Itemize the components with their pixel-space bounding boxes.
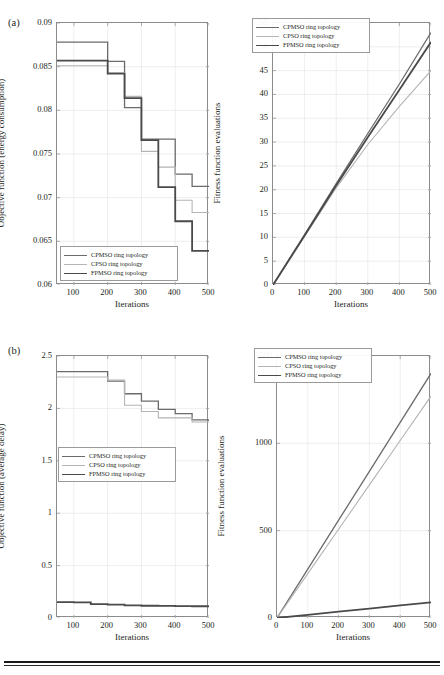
series-line-2 xyxy=(57,61,209,251)
x-tick-label: 200 xyxy=(320,287,350,297)
x-tick-label: 400 xyxy=(384,620,414,630)
legend-item-2: FPMSO ring topology xyxy=(256,40,365,49)
x-tick-label: 300 xyxy=(352,287,382,297)
y-axis-label: Objective function (average delay) xyxy=(0,355,6,617)
y-axis-label: Fitness function evaluations xyxy=(212,22,222,284)
x-tick-label: 200 xyxy=(92,287,122,297)
gridlines xyxy=(277,356,431,618)
legend-label: FPMSO ring topology xyxy=(283,40,339,49)
chart-a-left: 0.060.0650.070.0750.080.0850.09100200300… xyxy=(0,0,222,330)
legend-label: CPMSO ring topology xyxy=(285,352,342,361)
y-tick-label: 1.5 xyxy=(8,455,52,465)
x-tick-label: 500 xyxy=(193,287,223,297)
x-tick-label: 300 xyxy=(353,620,383,630)
legend-line-swatch xyxy=(62,451,85,460)
y-axis-label: Fitness function evaluations xyxy=(216,355,226,617)
y-tick-label: 2.5 xyxy=(8,350,52,360)
legend-label: FPMSO ring topology xyxy=(91,268,147,277)
series-line-1 xyxy=(57,377,209,422)
y-tick-label: 0.085 xyxy=(8,61,52,71)
legend-item-1: CPSO ring topology xyxy=(256,31,365,40)
x-tick-label: 400 xyxy=(159,620,189,630)
series-line-2 xyxy=(57,602,209,606)
legend-label: CPMSO ring topology xyxy=(91,250,148,259)
x-tick-label: 0 xyxy=(261,620,291,630)
legend-line-swatch xyxy=(62,469,85,478)
y-tick-label: 0.08 xyxy=(8,104,52,114)
chart-b-right: 0500100015000100200300400500IterationsFi… xyxy=(222,330,444,660)
series-line-0 xyxy=(57,372,209,421)
legend-line-swatch xyxy=(258,370,281,379)
x-tick-label: 500 xyxy=(415,287,444,297)
y-tick-label: 0.5 xyxy=(8,560,52,570)
x-tick-label: 0 xyxy=(257,287,287,297)
legend-line-swatch xyxy=(258,352,281,361)
x-tick-label: 200 xyxy=(92,620,122,630)
y-tick-label: 2 xyxy=(8,402,52,412)
y-tick-label: 0.07 xyxy=(8,192,52,202)
legend-line-swatch xyxy=(64,268,87,277)
x-tick-label: 500 xyxy=(193,620,223,630)
series-line-1 xyxy=(273,71,431,285)
series-line-0 xyxy=(277,373,431,618)
x-tick-label: 300 xyxy=(125,287,155,297)
legend-item-0: CPMSO ring topology xyxy=(258,352,367,361)
x-axis-label: Iterations xyxy=(56,632,208,642)
legend-line-swatch xyxy=(62,460,85,469)
legend-label: CPSO ring topology xyxy=(89,460,140,469)
legend-line-swatch xyxy=(64,250,87,259)
plot-area-a-right xyxy=(272,22,430,284)
y-tick-label: 0.09 xyxy=(8,17,52,27)
legend-label: FPMSO ring topology xyxy=(89,469,145,478)
y-tick-label: 10 xyxy=(224,231,268,241)
series-line-0 xyxy=(57,42,209,186)
legend-label: CPSO ring topology xyxy=(285,361,336,370)
chart-a-right: 05101520253035404550550100200300400500It… xyxy=(222,0,444,330)
legend-line-swatch xyxy=(256,40,279,49)
legend-b-left: CPMSO ring topologyCPSO ring topologyFPM… xyxy=(58,447,176,482)
legend-label: CPMSO ring topology xyxy=(283,22,340,31)
series-line-2 xyxy=(277,602,431,618)
legend-line-swatch xyxy=(256,22,279,31)
legend-label: FPMSO ring topology xyxy=(285,370,341,379)
y-tick-label: 0 xyxy=(8,612,52,622)
legend-item-0: CPMSO ring topology xyxy=(64,250,173,259)
figure-page: (a) 0.060.0650.070.0750.080.0850.0910020… xyxy=(0,0,444,675)
legend-line-swatch xyxy=(258,361,281,370)
tick-marks xyxy=(57,356,209,618)
x-axis-label: Iterations xyxy=(272,299,430,309)
x-tick-label: 100 xyxy=(289,287,319,297)
x-tick-label: 100 xyxy=(58,287,88,297)
series-line-1 xyxy=(277,396,431,618)
legend-a-left: CPMSO ring topologyCPSO ring topologyFPM… xyxy=(60,246,178,281)
y-tick-label: 30 xyxy=(224,136,268,146)
x-tick-label: 200 xyxy=(323,620,353,630)
footer-rule xyxy=(4,661,440,663)
x-tick-label: 300 xyxy=(125,620,155,630)
legend-line-swatch xyxy=(256,31,279,40)
y-tick-label: 35 xyxy=(224,112,268,122)
series-line-1 xyxy=(57,66,209,213)
footer-rule-thin xyxy=(4,665,440,666)
plot-area-b-left xyxy=(56,355,208,617)
y-tick-label: 40 xyxy=(224,88,268,98)
x-tick-label: 400 xyxy=(159,287,189,297)
y-tick-label: 500 xyxy=(228,525,272,535)
series-line-2 xyxy=(273,42,431,285)
tick-marks xyxy=(273,23,431,285)
y-tick-label: 0.065 xyxy=(8,235,52,245)
y-tick-label: 15 xyxy=(224,208,268,218)
legend-item-1: CPSO ring topology xyxy=(258,361,367,370)
legend-item-1: CPSO ring topology xyxy=(62,460,171,469)
y-tick-label: 1000 xyxy=(228,437,272,447)
legend-a-right: CPMSO ring topologyCPSO ring topologyFPM… xyxy=(252,18,370,53)
legend-item-0: CPMSO ring topology xyxy=(62,451,171,460)
y-tick-label: 0.06 xyxy=(8,279,52,289)
x-tick-label: 500 xyxy=(415,620,444,630)
y-tick-label: 25 xyxy=(224,160,268,170)
legend-item-2: FPMSO ring topology xyxy=(64,268,173,277)
y-axis-label: Objective function (energy consumption) xyxy=(0,22,6,284)
legend-item-1: CPSO ring topology xyxy=(64,259,173,268)
y-tick-label: 5 xyxy=(224,255,268,265)
legend-b-right: CPMSO ring topologyCPSO ring topologyFPM… xyxy=(254,348,372,383)
